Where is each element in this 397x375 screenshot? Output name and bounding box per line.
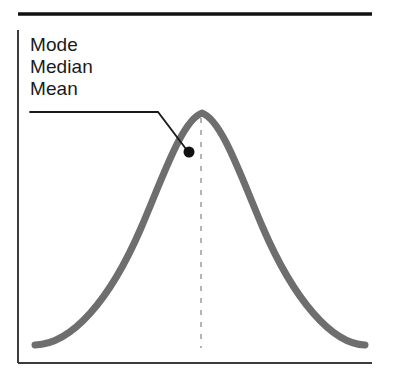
label-median: Median: [30, 56, 170, 78]
annotation-leader-line: [30, 112, 186, 149]
annotation-label-group: Mode Median Mean: [30, 34, 170, 100]
label-mean: Mean: [30, 78, 170, 100]
annotation-marker-dot: [184, 147, 195, 158]
figure-container: Mode Median Mean: [0, 0, 397, 375]
label-mode: Mode: [30, 34, 170, 56]
